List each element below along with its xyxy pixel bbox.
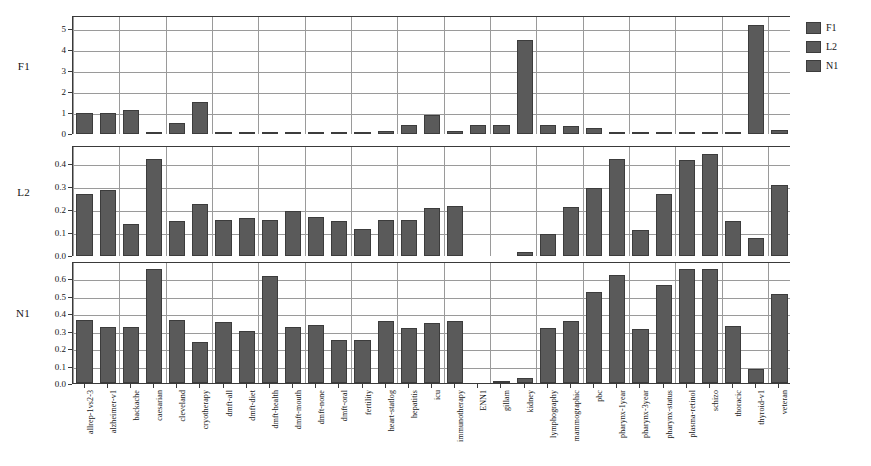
x-tick-mark	[269, 384, 270, 388]
x-tick-mark	[223, 384, 224, 388]
chart-figure: 012345F10.00.10.20.30.4L20.00.10.20.30.4…	[0, 0, 871, 466]
bar	[702, 269, 718, 383]
bar	[378, 321, 394, 383]
bar	[493, 381, 509, 383]
y-tick-mark	[68, 279, 72, 280]
x-tick-mark	[663, 384, 664, 388]
bar	[424, 115, 440, 134]
y-tick-label: 0.6	[55, 275, 66, 284]
x-tick-label: dmft-oral	[341, 390, 349, 421]
bar	[748, 238, 764, 256]
bar	[679, 269, 695, 383]
y-tick-label: 0.4	[55, 160, 66, 169]
x-tick-mark	[408, 384, 409, 388]
bar	[308, 325, 324, 383]
bar	[192, 342, 208, 383]
x-tick-mark	[199, 384, 200, 388]
x-tick-label: allrep-1vs2-3	[87, 390, 95, 434]
y-tick-label: 3	[62, 66, 67, 75]
bar	[146, 132, 162, 134]
x-tick-mark	[755, 384, 756, 388]
bar	[586, 128, 602, 134]
x-tick-mark	[176, 384, 177, 388]
x-tick-mark	[616, 384, 617, 388]
legend-swatch	[806, 22, 821, 34]
bar	[725, 326, 741, 384]
bar	[447, 131, 463, 134]
bar	[609, 132, 625, 134]
x-tick-mark	[315, 384, 316, 388]
y-tick-label: 0.0	[55, 380, 66, 389]
y-tick-mark	[68, 256, 72, 257]
y-tick-label: 0.1	[55, 362, 66, 371]
bar	[748, 369, 764, 383]
y-tick-mark	[68, 332, 72, 333]
bar	[76, 194, 92, 256]
legend-entry: L2	[806, 41, 838, 53]
bar	[285, 132, 301, 134]
x-tick-label: thyroid-v1	[758, 390, 766, 425]
x-tick-label: kidney	[527, 390, 535, 412]
bar	[262, 276, 278, 383]
bar	[517, 40, 533, 134]
bar	[123, 224, 139, 256]
x-tick-label: thoracic	[735, 390, 743, 417]
x-tick-label: immunotherapy	[457, 390, 465, 442]
x-tick-mark	[362, 384, 363, 388]
bar	[100, 327, 116, 383]
bar	[586, 188, 602, 256]
y-tick-mark	[68, 349, 72, 350]
x-tick-label: pbc	[596, 390, 604, 402]
x-tick-mark	[686, 384, 687, 388]
x-tick-mark	[639, 384, 640, 388]
x-tick-mark	[547, 384, 548, 388]
bar	[169, 123, 185, 134]
bar	[76, 320, 92, 383]
x-tick-mark	[153, 384, 154, 388]
x-tick-label: pharynx-3year	[642, 390, 650, 438]
bar	[656, 194, 672, 256]
chart-legend: F1L2N1	[806, 22, 838, 79]
x-tick-label: backache	[133, 390, 141, 421]
panel-label-f1: F1	[0, 60, 30, 71]
bar	[123, 110, 139, 134]
panel-label-n1: N1	[0, 308, 30, 319]
legend-entry: F1	[806, 22, 838, 34]
bar	[656, 132, 672, 134]
y-axis-l2: 0.00.10.20.30.4L2	[0, 146, 72, 256]
legend-swatch	[806, 41, 821, 53]
x-tick-label: dmft-diet	[249, 390, 257, 421]
bar	[563, 321, 579, 383]
x-tick-label: gillam	[503, 390, 511, 411]
bar	[493, 125, 509, 134]
x-tick-mark	[292, 384, 293, 388]
y-tick-label: 1	[62, 108, 67, 117]
x-axis-labels: allrep-1vs2-3alzheimer-v1backachecaesari…	[72, 384, 790, 466]
x-tick-label: dmft-mouth	[295, 390, 303, 429]
x-tick-mark	[107, 384, 108, 388]
bar	[192, 102, 208, 134]
x-tick-mark	[778, 384, 779, 388]
y-tick-label: 4	[62, 45, 67, 54]
bar	[378, 131, 394, 134]
bar	[702, 132, 718, 134]
bar	[192, 204, 208, 256]
x-tick-label: heart-statlog	[388, 390, 396, 431]
bar	[586, 292, 602, 383]
bar	[632, 230, 648, 256]
bar	[100, 190, 116, 256]
bar	[563, 126, 579, 134]
bar	[771, 294, 787, 383]
y-tick-mark	[68, 297, 72, 298]
x-tick-mark	[84, 384, 85, 388]
bar	[262, 132, 278, 134]
bar	[308, 132, 324, 134]
x-tick-label: cleveland	[179, 390, 187, 422]
y-tick-label: 0.3	[55, 183, 66, 192]
panel-n1: 0.00.10.20.30.40.50.6N1	[72, 262, 790, 384]
panel-label-l2: L2	[0, 187, 30, 198]
bar	[679, 160, 695, 256]
bar	[401, 328, 417, 383]
y-tick-label: 5	[62, 24, 67, 33]
y-tick-label: 2	[62, 87, 67, 96]
